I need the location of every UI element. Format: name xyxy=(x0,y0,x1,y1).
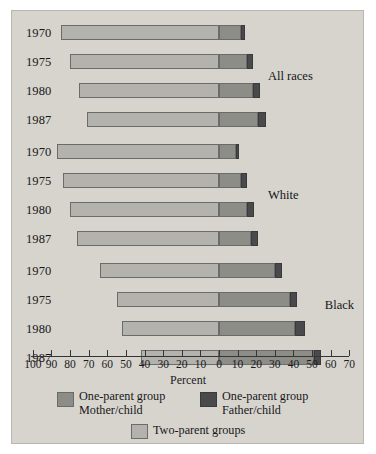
axis-tick xyxy=(89,350,90,356)
bar-segment-two-parent xyxy=(61,25,219,40)
legend-label-line1: Two-parent groups xyxy=(153,423,245,437)
bar-segment-two-parent xyxy=(79,83,219,98)
axis-tick xyxy=(163,350,164,356)
bar-segment-mother-child xyxy=(219,173,241,188)
bar-segment-two-parent xyxy=(100,263,219,278)
bar-row xyxy=(12,173,363,188)
axis-tick xyxy=(293,350,294,356)
group-label-all-races: All races xyxy=(268,69,313,84)
bar-segment-mother-child xyxy=(219,231,251,246)
bar-row xyxy=(12,292,363,307)
axis-tick xyxy=(70,350,71,356)
axis-tick xyxy=(275,350,276,356)
bar-segment-father-child xyxy=(251,231,258,246)
bar-segment-two-parent xyxy=(117,292,219,307)
bar-segment-mother-child xyxy=(219,112,258,127)
legend-label-line1: One-parent group xyxy=(222,389,308,403)
axis-tick-label: 70 xyxy=(335,358,363,370)
axis-tick xyxy=(200,350,201,356)
axis-tick xyxy=(33,350,34,356)
bar-segment-mother-child xyxy=(219,144,236,159)
bar-segment-two-parent xyxy=(122,321,219,336)
legend-label-0: One-parent groupMother/child xyxy=(79,389,165,417)
bar-row xyxy=(12,321,363,336)
bar-row xyxy=(12,54,363,69)
legend-label-line1: One-parent group xyxy=(79,389,165,403)
legend-label-line2: Mother/child xyxy=(79,403,165,417)
bar-segment-father-child xyxy=(258,112,265,127)
chart-figure: 1970197519801987197019751980198719701975… xyxy=(0,0,376,454)
legend-swatch-2 xyxy=(131,424,148,439)
bar-segment-father-child xyxy=(241,25,245,40)
bar-row xyxy=(12,83,363,98)
bar-segment-two-parent xyxy=(77,231,219,246)
bar-row xyxy=(12,112,363,127)
axis-tick xyxy=(331,350,332,356)
bar-row xyxy=(12,231,363,246)
bar-segment-mother-child xyxy=(219,202,247,217)
legend-swatch-0 xyxy=(57,392,74,407)
bar-row xyxy=(12,25,363,40)
axis-tick xyxy=(145,350,146,356)
legend-swatch-1 xyxy=(200,392,217,407)
axis-tick xyxy=(349,350,350,356)
bar-segment-mother-child xyxy=(219,321,295,336)
axis-tick xyxy=(51,350,52,356)
bar-segment-two-parent xyxy=(87,112,219,127)
legend-label-line2: Father/child xyxy=(222,403,308,417)
bar-segment-mother-child xyxy=(219,54,247,69)
axis-title: Percent xyxy=(0,373,376,388)
bar-segment-father-child xyxy=(241,173,247,188)
axis-tick xyxy=(219,350,220,356)
bar-segment-father-child xyxy=(275,263,282,278)
bar-segment-father-child xyxy=(295,321,304,336)
bar-segment-father-child xyxy=(290,292,297,307)
legend-label-2: Two-parent groups xyxy=(153,423,245,437)
legend-label-1: One-parent groupFather/child xyxy=(222,389,308,417)
bar-segment-father-child xyxy=(236,144,240,159)
bar-segment-two-parent xyxy=(70,54,219,69)
axis-tick xyxy=(238,350,239,356)
bar-segment-father-child xyxy=(247,54,253,69)
axis-tick xyxy=(256,350,257,356)
bar-row xyxy=(12,202,363,217)
bar-segment-two-parent xyxy=(57,144,219,159)
bar-segment-mother-child xyxy=(219,263,275,278)
bar-segment-two-parent xyxy=(63,173,219,188)
axis-tick xyxy=(126,350,127,356)
group-label-black: Black xyxy=(325,298,354,313)
bar-segment-mother-child xyxy=(219,25,241,40)
group-label-white: White xyxy=(268,188,299,203)
bar-segment-two-parent xyxy=(70,202,219,217)
axis-tick xyxy=(107,350,108,356)
bar-segment-mother-child xyxy=(219,83,253,98)
axis-line xyxy=(31,356,349,357)
axis-tick xyxy=(312,350,313,356)
bar-segment-father-child xyxy=(247,202,254,217)
bar-segment-father-child xyxy=(253,83,260,98)
axis-tick xyxy=(182,350,183,356)
bar-row xyxy=(12,144,363,159)
bar-row xyxy=(12,263,363,278)
bar-segment-mother-child xyxy=(219,292,290,307)
